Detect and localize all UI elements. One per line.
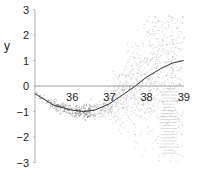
y-tick-label: 3 (23, 4, 29, 16)
x-tick-label: 37 (103, 91, 115, 103)
y-tick-labels: 3210−1−2−3 (16, 4, 29, 169)
y-tick-label: −2 (16, 131, 29, 143)
y-tick-label: 1 (23, 55, 29, 67)
scatter-plot: 3210−1−2−3 36373839 y (0, 0, 206, 173)
y-tick-label: −1 (16, 106, 29, 118)
y-tick-label: 2 (23, 29, 29, 41)
x-tick-label: 36 (66, 91, 78, 103)
y-tick-label: −3 (16, 157, 29, 169)
x-tick-label: 39 (178, 91, 190, 103)
scatter-points (36, 15, 185, 162)
x-tick-label: 38 (140, 91, 152, 103)
y-axis-label: y (4, 39, 10, 53)
y-tick-label: 0 (23, 80, 29, 92)
